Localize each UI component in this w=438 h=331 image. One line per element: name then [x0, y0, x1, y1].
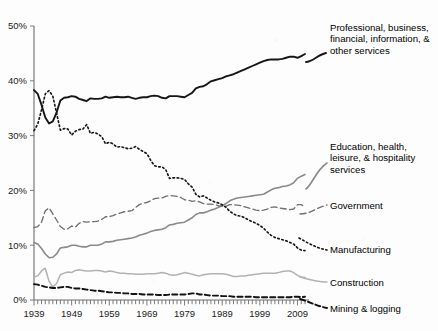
y-axis-tick-label: 40% [8, 75, 28, 86]
leader-line-professional [306, 53, 326, 62]
x-axis-tick-label: 1989 [212, 308, 233, 319]
x-axis-tick-label: 1969 [136, 308, 157, 319]
x-axis-tick-label: 1939 [23, 308, 44, 319]
series-line-education [34, 175, 305, 258]
legend-label-professional: Professional, business, financial, infor… [330, 22, 430, 56]
legend-professional-line3: other services [330, 45, 430, 56]
legend-label-manufacturing: Manufacturing [330, 244, 391, 255]
leader-line-manufacturing [299, 238, 327, 250]
y-axis-tick-label: 10% [8, 240, 28, 251]
y-axis-tick-label: 50% [8, 20, 28, 31]
x-axis-tick-label: 1979 [174, 308, 195, 319]
leader-line-government [300, 205, 327, 214]
legend-education-line3: services [330, 164, 415, 175]
x-axis-tick-label: 1959 [99, 308, 120, 319]
series-line-manufacturing [34, 91, 305, 251]
y-axis-tick-label: 20% [8, 185, 28, 196]
series-line-mining [34, 284, 305, 297]
legend-education-line1: Education, health, [330, 141, 415, 152]
leader-line-construction [300, 277, 327, 282]
legend-professional-line2: financial, information, & [330, 33, 430, 44]
legend-label-education: Education, health, leisure, & hospitalit… [330, 141, 415, 175]
legend-government-line1: Government [330, 200, 383, 211]
legend-construction-line1: Construction [330, 277, 384, 288]
legend-label-government: Government [330, 200, 383, 211]
legend-professional-line1: Professional, business, [330, 22, 430, 33]
series-line-professional [34, 54, 305, 124]
legend-education-line2: leisure, & hospitality [330, 152, 415, 163]
x-axis-tick-label: 2009 [287, 308, 308, 319]
leader-line-group [299, 53, 327, 308]
legend-label-construction: Construction [330, 277, 384, 288]
employment-share-line-chart: 0%10%20%30%40%50%19391949195919691979198… [0, 0, 438, 331]
x-axis-tick-label: 1949 [61, 308, 82, 319]
leader-line-mining [300, 299, 327, 308]
y-axis-tick-label: 30% [8, 130, 28, 141]
series-line-construction [34, 268, 305, 287]
x-axis-tick-label: 1999 [249, 308, 270, 319]
series-group [34, 54, 305, 297]
legend-label-mining: Mining & logging [330, 303, 401, 314]
y-axis-tick-label: 0% [13, 294, 27, 305]
axis-group: 0%10%20%30%40%50%19391949195919691979198… [8, 20, 309, 319]
legend-mining-line1: Mining & logging [330, 303, 401, 314]
legend-manufacturing-line1: Manufacturing [330, 244, 391, 255]
leader-line-education [306, 163, 327, 189]
